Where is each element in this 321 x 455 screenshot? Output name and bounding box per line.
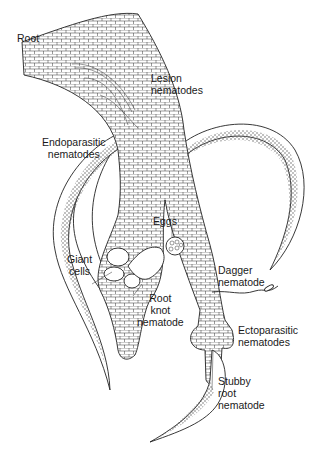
label-root: Root: [17, 32, 39, 44]
stubby-root-nematode: [150, 350, 225, 442]
nematode-diagram: Root Lesion nematodes Endoparasitic nema…: [0, 0, 321, 455]
label-lesion-nematodes: Lesion nematodes: [151, 72, 203, 96]
diagram-drawing: [0, 0, 321, 455]
label-eggs: Eggs: [153, 215, 177, 227]
egg-mass: [166, 237, 184, 255]
label-root-knot-nematode: Root knot nematode: [137, 292, 184, 328]
label-ectoparasitic-nematodes: Ectoparasitic nematodes: [238, 324, 298, 348]
root: [22, 13, 234, 384]
label-dagger-nematode: Dagger nematode: [218, 264, 265, 288]
label-stubby-root-nematode: Stubby root nematode: [218, 375, 265, 411]
label-endoparasitic-nematodes: Endoparasitic nematodes: [42, 136, 106, 160]
label-giant-cells: Giant cells: [67, 253, 92, 277]
